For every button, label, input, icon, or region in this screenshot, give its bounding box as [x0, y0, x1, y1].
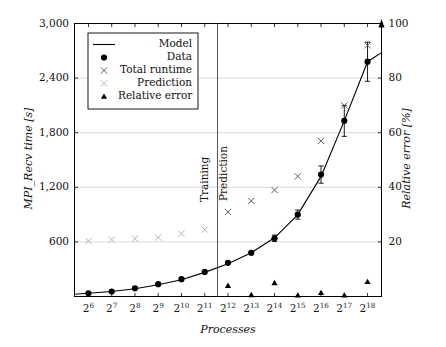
data-point-marker — [295, 212, 301, 218]
legend-label-model: Model — [118, 37, 192, 49]
relative-error-marker — [341, 292, 347, 297]
relative-error-marker — [318, 290, 324, 295]
x-tick-label: 213 — [240, 302, 262, 314]
cross-marker — [271, 187, 277, 193]
relative-error-marker — [364, 279, 370, 284]
data-point-marker — [155, 281, 161, 287]
cross-marker — [295, 173, 301, 179]
region-label-training: Training — [198, 142, 210, 202]
legend-marker-data — [101, 54, 107, 60]
cross-marker — [225, 209, 231, 215]
x-tick-label: 26 — [77, 302, 99, 314]
x-tick-label: 215 — [287, 302, 309, 314]
data-point-marker — [271, 235, 277, 241]
x-tick-label: 212 — [217, 302, 239, 314]
x-tick-label: 217 — [333, 302, 355, 314]
relative-error-marker — [271, 280, 277, 285]
data-point-marker — [225, 260, 231, 266]
x-tick-label: 210 — [170, 302, 192, 314]
legend-label-data: Data — [118, 50, 192, 62]
cross-marker — [318, 138, 324, 144]
y-right-tick-label: 20 — [389, 235, 402, 247]
x-tick-label: 216 — [310, 302, 332, 314]
y-left-tick-label: 2,400 — [18, 71, 69, 83]
data-point-marker — [202, 269, 208, 275]
cross-marker — [155, 234, 161, 240]
cross-marker — [178, 231, 184, 237]
relative-error-marker — [295, 292, 301, 297]
y-left-axis-title: MPI_Recv time [s] — [22, 89, 35, 229]
x-tick-label: 29 — [147, 302, 169, 314]
x-tick-label: 214 — [264, 302, 286, 314]
data-point-marker — [364, 59, 370, 65]
x-tick-label: 218 — [357, 302, 379, 314]
x-tick-label: 27 — [101, 302, 123, 314]
cross-marker — [132, 236, 138, 242]
data-point-marker — [85, 290, 91, 296]
data-point-marker — [132, 285, 138, 291]
cross-marker — [202, 227, 208, 233]
cross-marker — [85, 238, 91, 244]
legend-label-relative-error: Relative error — [118, 89, 192, 101]
relative-error-marker — [225, 283, 231, 288]
y-left-tick-label: 600 — [18, 235, 69, 247]
legend-label-prediction: Prediction — [118, 76, 192, 88]
data-point-marker — [248, 250, 254, 256]
region-label-prediction: Prediction — [217, 131, 229, 201]
data-point-marker — [178, 276, 184, 282]
y-left-tick-label: 3,000 — [18, 17, 69, 29]
relative-error-marker — [248, 292, 254, 297]
legend-label-total-runtime: Total runtime — [118, 63, 192, 75]
y-right-tick-label: 100 — [389, 17, 409, 29]
data-point-marker — [318, 171, 324, 177]
y-right-axis-title: Relative error [%] — [400, 89, 413, 229]
data-point-marker — [341, 118, 347, 124]
y-right-tick-label: 80 — [389, 71, 402, 83]
x-tick-label: 211 — [194, 302, 216, 314]
x-axis-title: Processes — [75, 323, 382, 336]
data-point-marker — [109, 288, 115, 294]
cross-marker — [248, 198, 254, 204]
x-tick-label: 28 — [124, 302, 146, 314]
